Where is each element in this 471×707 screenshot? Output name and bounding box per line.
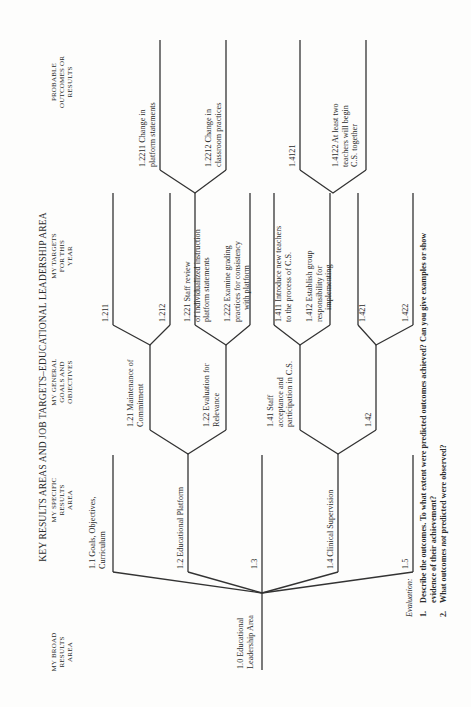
- evaluation-item-1: 1. Describe the outcomes. To what extent…: [419, 17, 439, 617]
- node-label-line: Relevance: [212, 364, 222, 427]
- node-label-line: 1.41 Staff: [266, 361, 276, 427]
- node-label-line: 1.412 Establish group: [305, 250, 315, 322]
- node-1-42: 1.42: [364, 413, 374, 427]
- node-1-4: 1.4 Clinical Supervision: [326, 490, 336, 569]
- node-label-line: 1.211: [101, 304, 111, 322]
- item-number: 1.: [419, 603, 439, 617]
- evaluation-item-2: 2. What outcomes not predicted were obse…: [439, 17, 449, 617]
- item-text: What outcomes not predicted were observe…: [439, 444, 449, 603]
- node-label-line: 1.222 Examine grading: [223, 241, 233, 322]
- node-label-line: 1.4122 At least two: [331, 103, 341, 167]
- node-label-line: 1.21 Maintenance of: [126, 359, 136, 427]
- item-text-post: predicted were observed?: [439, 444, 448, 535]
- node-label-line: Curriculum: [98, 496, 108, 569]
- node-1-1: 1.1 Goals, Objectives, Curriculum: [88, 496, 107, 569]
- item-text-line: evidence of their achievement?: [429, 233, 439, 603]
- evaluation-section: Evaluation: 1. Describe the outcomes. To…: [405, 17, 449, 617]
- node-label-line: 1.22 Evaluation for: [202, 364, 212, 427]
- item-text: Describe the outcomes. To what extent we…: [419, 233, 439, 603]
- node-label-line: 1.4121: [288, 144, 298, 167]
- item-text-emphasis: not: [439, 536, 448, 547]
- node-label-line: Commitment: [136, 359, 146, 427]
- node-1-0-educational-leadership-area: 1.0 Educational Leadership Area: [236, 615, 255, 669]
- node-label-line: 1.4 Clinical Supervision: [326, 490, 336, 569]
- item-text-pre: What outcomes: [439, 547, 448, 603]
- node-1-2212: 1.2212 Change in classroom practices: [204, 103, 223, 167]
- node-label-line: 1.421: [358, 304, 368, 322]
- node-1-222: 1.222 Examine grading practices for cons…: [223, 241, 252, 322]
- node-1-421: 1.421: [358, 304, 368, 322]
- evaluation-heading: Evaluation:: [405, 17, 415, 617]
- node-label-line: responsibility for: [315, 250, 325, 322]
- node-label-line: 1.221 Staff review: [183, 229, 193, 322]
- node-label-line: platform statements: [148, 102, 158, 167]
- node-label-line: with platform: [242, 241, 252, 322]
- node-label-line: platform statements: [202, 229, 212, 322]
- node-label-line: C.S. together: [350, 103, 360, 167]
- node-label-line: 1.3: [250, 559, 260, 569]
- node-label-line: to the process of C.S.: [284, 226, 294, 322]
- node-label-line: 1.2 Educational Platform: [176, 487, 186, 569]
- node-label-line: 1.0 Educational: [236, 615, 246, 669]
- node-1-22: 1.22 Evaluation for Relevance: [202, 364, 221, 427]
- node-1-4121: 1.4121: [288, 144, 298, 167]
- node-label-line: 1.2212 Change in: [204, 103, 214, 167]
- diagram-page: KEY RESULTS AREAS AND JOB TARGETS–EDUCAT…: [0, 0, 471, 707]
- node-1-4122: 1.4122 At least two teachers will begin …: [331, 103, 360, 167]
- node-1-221: 1.221 Staff review of individualized ins…: [183, 229, 212, 322]
- node-label-line: 1.42: [364, 413, 374, 427]
- node-label-line: 1.1 Goals, Objectives,: [88, 496, 98, 569]
- node-1-411: 1.411 Introduce new teachers to the proc…: [274, 226, 293, 322]
- node-label-line: acceptance and: [276, 361, 286, 427]
- node-label-line: classroom practices: [214, 103, 224, 167]
- node-label-line: 1.212: [158, 304, 168, 322]
- node-1-41: 1.41 Staff acceptance and participation …: [266, 361, 295, 427]
- node-label-line: participation in C.S.: [285, 361, 295, 427]
- node-label-line: 1.2211 Change in: [138, 102, 148, 167]
- node-label-line: of individualized instruction: [193, 229, 203, 322]
- node-label-line: practices for consistency: [233, 241, 243, 322]
- node-1-2: 1.2 Educational Platform: [176, 487, 186, 569]
- node-label-line: teachers will begin: [341, 103, 351, 167]
- item-text-line: Describe the outcomes. To what extent we…: [419, 233, 429, 603]
- node-1-412: 1.412 Establish group responsibility for…: [305, 250, 334, 322]
- node-label-line: 1.411 Introduce new teachers: [274, 226, 284, 322]
- node-label-line: Leadership Area: [246, 615, 256, 669]
- item-number: 2.: [439, 603, 449, 617]
- node-1-212: 1.212: [158, 304, 168, 322]
- node-1-211: 1.211: [101, 304, 111, 322]
- tree-connector-lines: [0, 0, 471, 707]
- node-label-line: implementing: [324, 250, 334, 322]
- node-1-2211: 1.2211 Change in platform statements: [138, 102, 157, 167]
- node-1-3: 1.3: [250, 559, 260, 569]
- node-1-21: 1.21 Maintenance of Commitment: [126, 359, 145, 427]
